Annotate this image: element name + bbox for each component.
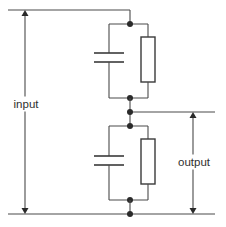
input-arrow bbox=[22, 10, 29, 214]
junction-node bbox=[127, 211, 133, 217]
circuit-diagram bbox=[0, 0, 226, 227]
bottom-rail bbox=[8, 200, 215, 217]
capacitor-c2 bbox=[94, 126, 124, 200]
junction-node bbox=[127, 21, 133, 27]
arrow-up-icon bbox=[22, 10, 29, 16]
junction-node bbox=[127, 109, 133, 115]
arrow-down-icon bbox=[190, 208, 197, 214]
resistor-r1 bbox=[141, 24, 155, 98]
top-rail bbox=[8, 10, 130, 24]
resistor-r2 bbox=[141, 126, 155, 200]
input-label: input bbox=[13, 97, 40, 112]
middle-tap bbox=[127, 98, 215, 126]
upper-stage bbox=[94, 21, 155, 101]
arrow-down-icon bbox=[22, 208, 29, 214]
output-label: output bbox=[177, 155, 211, 170]
lower-stage bbox=[94, 123, 155, 203]
junction-node bbox=[127, 123, 133, 129]
capacitor-c1 bbox=[94, 24, 124, 98]
arrow-up-icon bbox=[190, 112, 197, 118]
